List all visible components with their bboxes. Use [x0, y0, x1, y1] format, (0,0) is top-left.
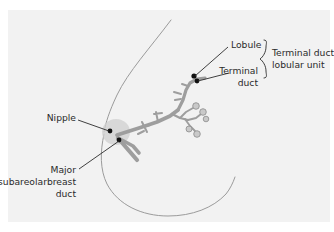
label-terminal-duct-line1: Terminal: [218, 65, 258, 76]
label-tdlu-line1: Terminal duct: [271, 47, 334, 58]
label-major-duct-line2: subareolarbreast: [0, 176, 76, 187]
duct-tree-group: [117, 78, 209, 160]
breast-upper-contour-line: [104, 20, 171, 132]
label-terminal-duct-line2: duct: [238, 77, 259, 88]
lobule-branch-mid: [188, 114, 201, 120]
segmental-duct-upper: [178, 78, 205, 110]
acinus-3: [194, 131, 201, 138]
lobule-branch-upper: [180, 108, 193, 118]
leader-line-group: [78, 47, 229, 169]
leader-line-major-duct: [79, 141, 119, 169]
label-tdlu-line2: lobular unit: [272, 59, 325, 70]
label-lobule: Lobule: [231, 39, 262, 50]
label-major-duct-line3: duct: [56, 188, 77, 199]
side-branch-d: [182, 84, 188, 86]
side-branch-c: [174, 92, 181, 100]
acinus-1: [193, 103, 200, 110]
acinus-4: [186, 126, 192, 132]
figure-root: Lobule Terminal duct Terminal duct lobul…: [0, 0, 334, 232]
breast-lower-contour-line: [101, 134, 235, 216]
label-nipple: Nipple: [47, 112, 77, 123]
breast-anatomy-diagram: Lobule Terminal duct Terminal duct lobul…: [0, 0, 334, 232]
label-major-duct-line1: Major: [50, 164, 76, 175]
acinus-2: [200, 109, 207, 116]
lobule-marker-dot: [191, 73, 196, 78]
acinus-5: [203, 116, 209, 122]
